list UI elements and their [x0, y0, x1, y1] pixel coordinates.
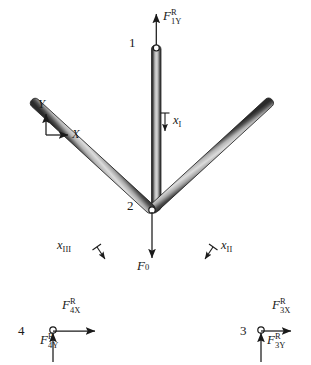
force-symbol: F: [272, 297, 280, 312]
pointer-tick-xIII: [93, 244, 102, 250]
force-label-F4Y: FR4Y: [40, 332, 58, 350]
member-roman: III: [63, 244, 72, 254]
force-subscript: 4X: [70, 306, 80, 315]
pointer-tick-xII: [209, 244, 218, 250]
member-I: [152, 45, 162, 211]
node-label-4: 4: [18, 324, 25, 337]
force-subscript: 1Y: [171, 17, 181, 26]
force-subscript: 4Y: [48, 341, 58, 350]
force-label-F3Y: FR3Y: [267, 332, 285, 350]
member-roman: I: [179, 119, 182, 129]
force-subscript: 0: [145, 263, 149, 272]
node-label-3: 3: [240, 324, 247, 337]
force-symbol: F: [267, 332, 275, 347]
joint-3: [258, 327, 264, 333]
member-roman: II: [227, 244, 233, 254]
member-III: [147, 96, 275, 214]
joint-1: [153, 45, 159, 51]
node-label-2: 2: [127, 199, 134, 212]
pointer-arrow-xIII: [97, 247, 105, 259]
node-label-1: 1: [129, 36, 136, 49]
force-label-F0: F0: [137, 258, 149, 274]
member-label-xII: xII: [221, 239, 232, 253]
force-symbol: F: [62, 297, 70, 312]
force-label-F1Y: FR1Y: [163, 8, 181, 26]
member-II: [29, 96, 157, 214]
axis-label-x: X: [72, 128, 80, 141]
force-symbol: F: [40, 332, 48, 347]
member-label-xI: xI: [173, 114, 181, 128]
force-symbol: F: [137, 258, 145, 273]
truss-drawing: [0, 0, 311, 365]
force-symbol: F: [163, 8, 171, 23]
force-subscript: 3X: [280, 306, 290, 315]
force-subscript: 3Y: [275, 341, 285, 350]
axis-label-y: Y: [38, 98, 45, 111]
member-label-xIII: xIII: [57, 239, 71, 253]
force-label-F4X: FR4X: [62, 297, 80, 315]
figure-canvas: 1 2 3 4 Y X FR1Y F0 FR3X FR3Y FR4X FR4Y …: [0, 0, 311, 365]
pointer-arrow-xII: [205, 247, 213, 259]
force-label-F3X: FR3X: [272, 297, 290, 315]
